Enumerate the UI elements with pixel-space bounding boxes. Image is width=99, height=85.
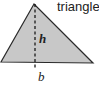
height-label: h xyxy=(39,32,46,45)
figure-title: triangle xyxy=(57,0,99,14)
triangle-diagram: triangle h b xyxy=(0,0,99,85)
base-label: b xyxy=(38,70,45,83)
